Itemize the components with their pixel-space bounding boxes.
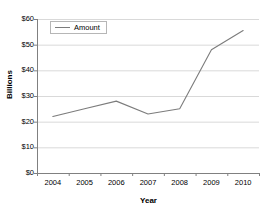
x-tick-label: 2010	[223, 178, 263, 187]
series-line-amount	[53, 31, 243, 117]
x-axis-title: Year	[36, 196, 261, 205]
legend-item-amount: Amount	[74, 23, 100, 32]
chart-legend: Amount	[50, 21, 107, 34]
legend-line-swatch	[55, 27, 70, 28]
x-axis-tick-labels: 2004200520062007200820092010	[36, 178, 261, 190]
line-chart: Billions $0$10$20$30$40$50$60 Amount 200…	[0, 0, 265, 215]
